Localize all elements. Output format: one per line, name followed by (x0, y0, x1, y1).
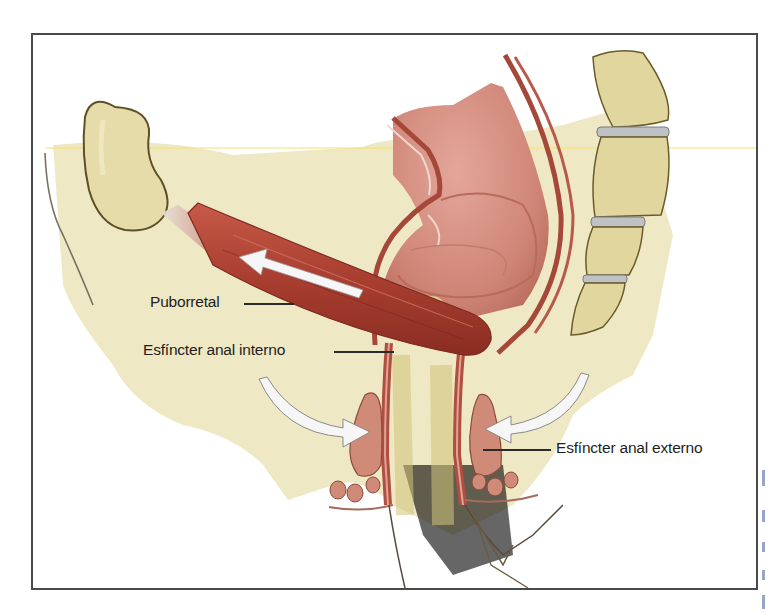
leader-line-esfinter-interno (334, 351, 394, 353)
anatomy-illustration (33, 35, 756, 588)
label-esfinter-interno: Esfíncter anal interno (143, 341, 285, 359)
figure-frame: Puborretal Esfíncter anal interno Esfínc… (31, 33, 758, 590)
leader-line-puborretal (244, 303, 294, 305)
label-esfinter-externo: Esfíncter anal externo (556, 439, 702, 457)
leader-line-esfinter-externo (483, 449, 551, 451)
page-edge-marks (762, 470, 768, 610)
label-puborretal: Puborretal (150, 293, 220, 311)
